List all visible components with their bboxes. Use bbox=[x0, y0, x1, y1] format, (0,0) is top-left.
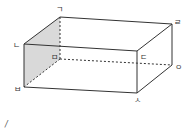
edge-giyeok-rieul bbox=[60, 17, 172, 24]
label-rieul: ㄹ bbox=[174, 18, 181, 27]
shaded-face bbox=[24, 17, 60, 87]
cuboid-diagram: ㄱ ㄹ ㄴ ㄷ ㅁ ㅇ ㅂ ㅅ / bbox=[0, 0, 192, 131]
footnote-mark: / bbox=[4, 120, 9, 129]
label-nieun: ㄴ bbox=[13, 41, 20, 50]
label-ieung: ㅇ bbox=[175, 63, 182, 72]
edge-siot-ieung bbox=[137, 65, 172, 93]
edge-mieum-ieung bbox=[60, 59, 172, 65]
edge-bieup-siot bbox=[24, 87, 137, 93]
label-mieum: ㅁ bbox=[51, 53, 58, 62]
label-bieup: ㅂ bbox=[14, 85, 21, 94]
label-siot: ㅅ bbox=[134, 96, 141, 105]
label-giyeok: ㄱ bbox=[56, 5, 63, 14]
label-digeut: ㄷ bbox=[140, 53, 147, 62]
edge-rieul-digeut bbox=[137, 24, 172, 51]
